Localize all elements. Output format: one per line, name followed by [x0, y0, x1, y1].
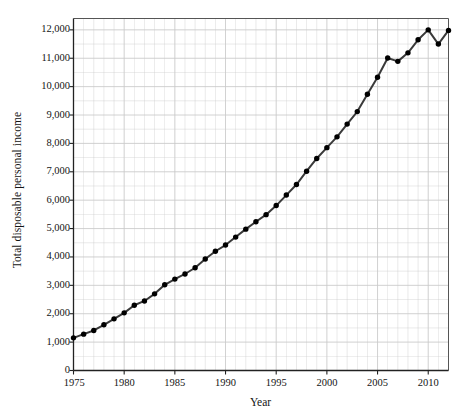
grid-minor: [74, 19, 449, 371]
plot-canvas: [0, 0, 475, 418]
data-line: [74, 30, 449, 338]
chart-figure: Total disposable personal income 01,0002…: [0, 0, 475, 418]
grid-major: [74, 19, 449, 371]
axis-frame: [74, 19, 449, 371]
data-markers: [71, 27, 451, 340]
